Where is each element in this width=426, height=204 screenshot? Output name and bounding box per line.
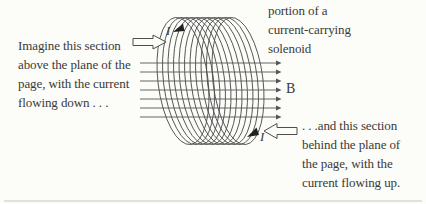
caption-left: Imagine this section above the plane of … bbox=[18, 36, 131, 112]
caption-top-right: portion of a current-carrying solenoid bbox=[268, 1, 351, 58]
pointer-arrow-left-icon bbox=[264, 124, 297, 139]
caption-top-right-line: solenoid bbox=[268, 39, 351, 58]
caption-top-right-line: current-carrying bbox=[268, 20, 351, 39]
caption-left-line: flowing down . . . bbox=[18, 93, 131, 112]
field-arrowhead bbox=[276, 78, 282, 83]
figure-solenoid: B I I Imagine this section above the pla… bbox=[0, 0, 426, 204]
caption-bottom-right-line: . . .and this section bbox=[302, 116, 400, 135]
field-arrowhead bbox=[276, 87, 282, 92]
magnetic-field-lines bbox=[140, 60, 282, 119]
field-arrowhead bbox=[276, 114, 282, 119]
caption-bottom-right-line: the page, with the bbox=[302, 154, 400, 173]
field-arrowhead bbox=[276, 96, 282, 101]
field-arrowhead bbox=[276, 105, 282, 110]
caption-left-line: Imagine this section bbox=[18, 36, 131, 55]
current-label-bottom: I bbox=[259, 129, 265, 144]
field-label-B: B bbox=[286, 81, 295, 96]
caption-bottom-right-line: current flowing up. bbox=[302, 173, 400, 192]
current-label-top: I bbox=[165, 23, 171, 38]
pointer-arrow-right-icon bbox=[133, 35, 166, 49]
caption-bottom-right-line: behind the plane of bbox=[302, 135, 400, 154]
caption-left-line: page, with the current bbox=[18, 74, 131, 93]
caption-top-right-line: portion of a bbox=[268, 1, 351, 20]
caption-bottom-right: . . .and this section behind the plane o… bbox=[302, 116, 400, 192]
caption-left-line: above the plane of the bbox=[18, 55, 131, 74]
field-arrowhead bbox=[276, 69, 282, 74]
field-arrowhead bbox=[276, 60, 282, 65]
